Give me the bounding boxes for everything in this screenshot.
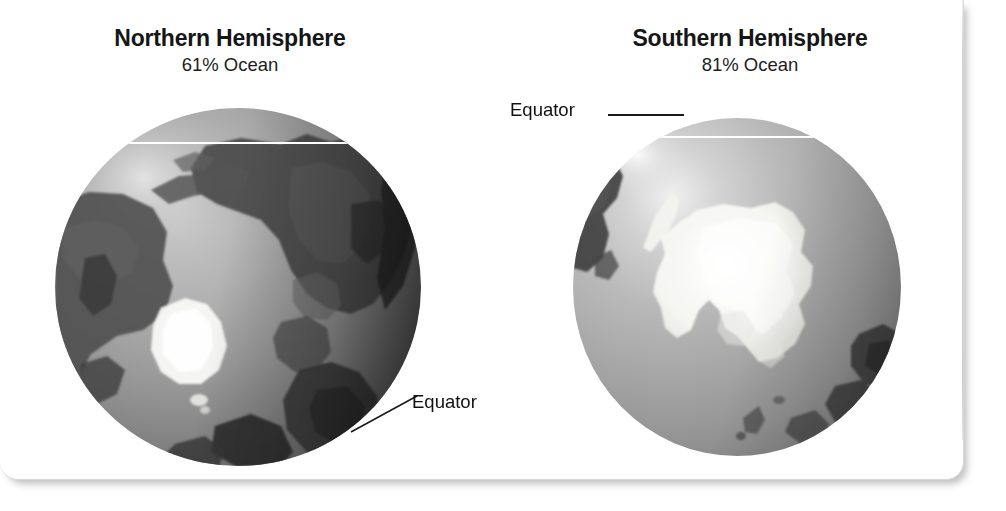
southern-hemisphere-ocean-percent: 81% Ocean	[560, 53, 940, 77]
northern-equator-line	[88, 142, 410, 144]
southern-equator-leader-line	[608, 108, 688, 122]
northern-hemisphere-caption: Northern Hemisphere 61% Ocean	[40, 24, 420, 77]
southern-hemisphere-caption: Southern Hemisphere 81% Ocean	[560, 24, 940, 77]
southern-equator-label: Equator	[510, 99, 575, 121]
southern-hemisphere-globe	[573, 118, 901, 456]
southern-globe-sphere	[573, 118, 901, 456]
northern-hemisphere-title: Northern Hemisphere	[40, 24, 420, 52]
southern-hemisphere-title: Southern Hemisphere	[560, 24, 940, 52]
figure-card: Northern Hemisphere 61% Ocean	[0, 0, 964, 480]
southern-globe-terminator	[573, 118, 901, 456]
card-right-edge	[962, 0, 963, 440]
northern-hemisphere-ocean-percent: 61% Ocean	[40, 53, 420, 77]
northern-equator-label: Equator	[412, 391, 477, 413]
southern-equator-line	[596, 136, 891, 138]
